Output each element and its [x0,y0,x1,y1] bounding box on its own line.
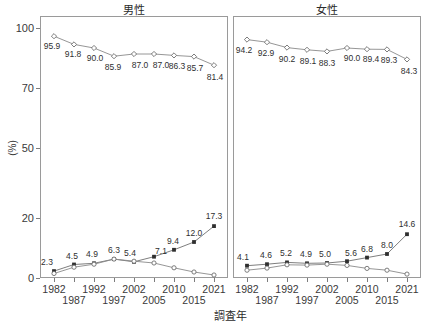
data-point-open-circle [285,263,289,267]
data-label: 89.3 [381,55,398,65]
x-axis-title: 調査年 [214,307,247,323]
data-point-open-diamond [244,37,249,42]
data-point-open-diamond [404,57,409,62]
data-point-open-circle [265,266,269,270]
x-tick-mark [194,278,195,282]
data-point-open-circle [385,268,389,272]
x-tick-mark [307,278,308,282]
x-tick-mark [287,278,288,282]
x-tick-mark [154,278,155,282]
x-tick-mark [407,278,408,282]
data-point-open-circle [245,268,249,272]
data-point-open-circle [345,263,349,267]
data-label: 5.0 [319,249,331,259]
data-point-filled-square [365,256,369,260]
data-point-open-diamond [304,47,309,52]
data-point-open-diamond [324,49,329,54]
chart-root: 男性 女性 (%) 0205070100 95.991.890.085.987.… [0,0,426,328]
x-tick-mark [387,278,388,282]
data-point-filled-square [245,264,249,268]
data-point-open-diamond [384,47,389,52]
data-point-filled-square [385,252,389,256]
x-tick-mark [247,278,248,282]
data-point-open-diamond [284,45,289,50]
data-label: 84.3 [401,66,418,76]
data-label: 14.6 [399,219,416,229]
x-tick-mark [327,278,328,282]
data-label: 90.2 [279,54,296,64]
data-label: 88.3 [319,58,336,68]
data-label: 89.4 [363,54,380,64]
x-tick-label: 2015 [182,294,205,306]
data-label: 89.1 [300,56,317,66]
data-label: 4.1 [237,252,249,262]
data-label: 92.9 [258,48,275,58]
data-point-filled-square [265,262,269,266]
x-tick-mark [267,278,268,282]
data-point-open-circle [405,272,409,276]
x-tick-mark [114,278,115,282]
x-tick-mark [174,278,175,282]
data-point-open-circle [325,262,329,266]
data-point-open-circle [305,263,309,267]
x-tick-mark [74,278,75,282]
x-tick-mark [94,278,95,282]
data-label: 5.6 [345,248,357,258]
x-tick-label: 2021 [202,283,225,295]
x-tick-mark [134,278,135,282]
data-label: 4.9 [300,249,312,259]
data-point-filled-square [405,232,409,236]
x-tick-mark [347,278,348,282]
x-tick-label: 2005 [142,294,165,306]
x-tick-label: 1987 [62,294,85,306]
data-point-filled-square [345,259,349,263]
data-point-open-circle [365,266,369,270]
data-point-open-diamond [264,40,269,45]
x-tick-label: 1987 [255,294,278,306]
x-tick-label: 2005 [335,294,358,306]
data-label: 5.2 [280,248,292,258]
x-tick-mark [54,278,55,282]
x-tick-mark [367,278,368,282]
data-point-open-diamond [364,47,369,52]
x-tick-label: 1997 [295,294,318,306]
x-tick-label: 1997 [102,294,125,306]
data-label: 6.8 [361,244,373,254]
data-label: 90.0 [344,53,361,63]
data-label: 94.2 [236,45,253,55]
x-tick-label: 2021 [395,283,418,295]
data-label: 4.6 [260,250,272,260]
data-label: 8.0 [381,240,393,250]
x-tick-mark [214,278,215,282]
series-layer-female [0,0,426,328]
x-tick-label: 2015 [375,294,398,306]
data-point-open-diamond [344,45,349,50]
